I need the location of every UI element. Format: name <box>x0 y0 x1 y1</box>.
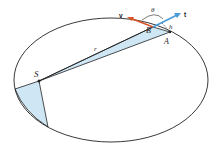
radius-line <box>39 27 153 81</box>
swept-area-near-A <box>39 27 170 81</box>
label-v: v <box>119 12 123 19</box>
label-A: A <box>163 37 169 46</box>
label-theta: θ <box>151 6 155 14</box>
swept-area-left <box>15 81 48 127</box>
label-r: r <box>94 45 97 53</box>
t-vector <box>153 15 177 27</box>
label-B: B <box>146 26 151 35</box>
label-t: t <box>184 11 187 18</box>
point-A <box>169 31 171 33</box>
orbit-diagram: S B A r h θ v t <box>0 0 213 151</box>
point-S <box>38 80 41 83</box>
label-h: h <box>169 23 173 31</box>
theta-arc <box>142 15 163 20</box>
label-S: S <box>34 69 39 79</box>
